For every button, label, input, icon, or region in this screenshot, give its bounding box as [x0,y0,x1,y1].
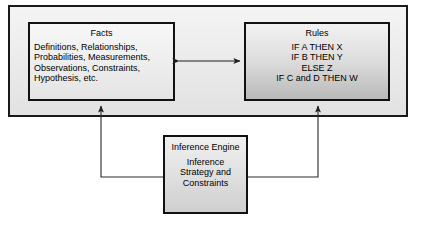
facts-title: Facts [30,28,173,39]
inference-engine-body: Inference Strategy and Constraints [165,157,246,189]
rules-box[interactable]: Rules IF A THEN X IF B THEN Y ELSE Z IF … [244,22,390,101]
rules-body: IF A THEN X IF B THEN Y ELSE Z IF C and … [246,42,388,84]
facts-line: Probabilities, Measurements, [30,52,173,63]
inference-engine-line: Strategy and [165,167,246,178]
rules-line: IF A THEN X [246,42,388,53]
inference-engine-title: Inference Engine [165,142,246,153]
inference-engine-line: Inference [165,157,246,168]
rules-line: IF C and D THEN W [246,73,388,84]
facts-line: Observations, Constraints, [30,63,173,74]
inference-engine-box[interactable]: Inference Engine Inference Strategy and … [163,135,248,214]
rules-line: IF B THEN Y [246,52,388,63]
facts-box[interactable]: Facts Definitions, Relationships, Probab… [28,22,175,101]
inference-engine-line: Constraints [165,178,246,189]
rules-line: ELSE Z [246,63,388,74]
expert-system-diagram: Facts Definitions, Relationships, Probab… [0,0,421,229]
inference-engine-title-line: Inference [171,142,209,152]
rules-title: Rules [246,28,388,39]
facts-line: Definitions, Relationships, [30,42,173,53]
facts-line: Hypothesis, etc. [30,73,173,84]
inference-engine-title-line: Engine [212,142,240,152]
facts-body: Definitions, Relationships, Probabilitie… [30,42,173,84]
